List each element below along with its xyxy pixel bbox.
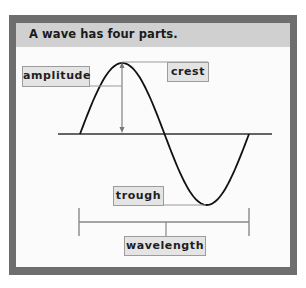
amplitude-label: amplitude (22, 66, 90, 87)
wavelength-label: wavelength (124, 236, 206, 256)
trough-label: trough (113, 186, 164, 206)
crest-label: crest (167, 62, 209, 82)
amplitude-arrowhead-bottom (120, 127, 125, 133)
